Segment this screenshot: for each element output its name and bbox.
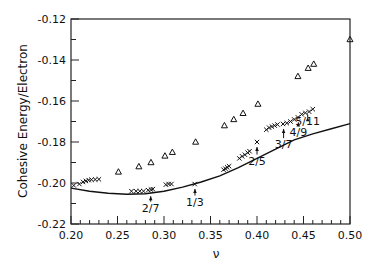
triangle-marker [169,149,175,154]
arrowhead-icon [193,189,197,193]
fraction-label: 4/9 [289,126,307,139]
cross-marker [97,177,101,181]
triangle-marker [148,159,154,164]
cross-marker [129,189,133,193]
y-axis-title: Cohesive Energy/Electron [16,44,30,198]
triangle-marker [295,73,301,78]
triangle-series [115,36,353,174]
cross-marker [237,156,241,160]
cross-marker [141,189,145,193]
triangle-marker [193,139,199,144]
y-tick-label: -0.14 [38,54,66,67]
fraction-label: 2/5 [248,155,266,168]
triangle-marker [255,101,261,106]
triangle-marker [115,169,121,174]
triangle-marker [162,153,168,158]
theory-curve-path [71,124,350,195]
cross-marker [264,128,268,132]
y-tick-label: -0.16 [38,95,66,108]
y-tick-label: -0.20 [38,177,66,190]
fraction-annotation: 1/3 [186,189,204,209]
triangle-marker [231,116,237,121]
triangle-marker [240,110,246,115]
triangle-marker [305,65,311,70]
cross-marker [72,183,76,187]
y-tick-label: -0.18 [38,136,66,149]
y-tick-label: -0.22 [38,218,66,231]
cross-marker [255,140,259,144]
y-tick-label: -0.12 [38,13,66,26]
triangle-marker [136,163,142,168]
x-axis: 0.200.250.300.350.400.450.50 [59,216,363,242]
x-tick-label: 0.40 [245,229,270,242]
x-tick-label: 0.25 [105,229,130,242]
x-tick-label: 0.45 [291,229,316,242]
fraction-label: 5/11 [295,115,320,128]
fraction-label: 1/3 [186,196,204,209]
x-tick-label: 0.35 [198,229,223,242]
triangle-marker [221,122,227,127]
x-tick-label: 0.30 [152,229,177,242]
cross-marker [169,182,173,186]
triangle-marker [311,61,317,66]
cross-marker [281,122,285,126]
fraction-label: 2/7 [142,202,160,215]
cross-marker [247,149,251,153]
y-axis: -0.12-0.14-0.16-0.18-0.20-0.22 [38,13,79,231]
fraction-annotation: 5/11 [295,115,320,128]
arrowhead-icon [255,147,259,151]
theory-curve [71,124,350,195]
arrowhead-icon [282,129,286,133]
cross-marker [227,164,231,168]
x-tick-label: 0.50 [338,229,363,242]
chart-canvas: 0.200.250.300.350.400.450.50 -0.12-0.14-… [0,0,374,268]
arrowhead-icon [149,196,153,200]
x-axis-title: ν [213,247,220,261]
fraction-annotation: 2/7 [142,196,160,215]
fraction-label: 3/7 [275,138,293,151]
cross-marker [311,107,315,111]
cross-marker [307,109,311,113]
